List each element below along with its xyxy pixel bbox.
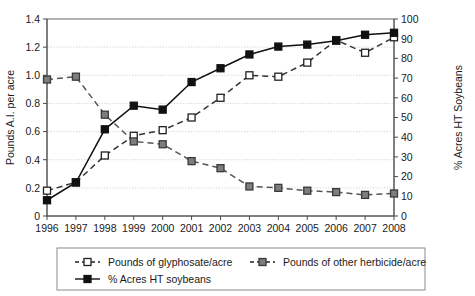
- data-point-marker: [217, 94, 224, 101]
- legend-label: Pounds of other herbicide/acre: [283, 256, 426, 268]
- data-point-marker: [304, 187, 311, 194]
- plot-frame: [47, 19, 394, 216]
- x-axis: 1996199719981999200020012002200320042005…: [35, 216, 406, 234]
- data-point-marker: [362, 191, 369, 198]
- legend-marker: [84, 259, 91, 266]
- line-chart: 00.20.40.60.81.01.21.4 01020304050607080…: [0, 0, 475, 296]
- data-series-layer: [44, 29, 398, 203]
- data-point-marker: [275, 73, 282, 80]
- x-axis-tick-label: 2001: [180, 222, 204, 234]
- right-axis-tick-label: 90: [401, 33, 413, 45]
- right-axis-tick-label: 20: [401, 170, 413, 182]
- x-axis-tick-label: 1999: [122, 222, 146, 234]
- data-point-marker: [159, 127, 166, 134]
- legend-marker: [259, 259, 266, 266]
- left-axis-tick-label: 0.4: [25, 154, 40, 166]
- x-axis-tick-label: 2000: [151, 222, 175, 234]
- y2-axis-title: % Acres HT Soybeans: [452, 65, 464, 170]
- data-point-marker: [159, 141, 166, 148]
- series-line: [47, 33, 394, 200]
- data-point-marker: [246, 51, 253, 58]
- right-axis-tick-label: 70: [401, 72, 413, 84]
- x-axis-tick-label: 1998: [93, 222, 117, 234]
- data-point-marker: [333, 37, 340, 44]
- data-point-marker: [217, 65, 224, 72]
- left-axis-tick-label: 0.2: [25, 182, 40, 194]
- left-axis-tick-label: 1.2: [25, 41, 40, 53]
- x-axis-tick-label: 2006: [324, 222, 348, 234]
- series-3: [44, 29, 398, 203]
- x-axis-tick-label: 2002: [209, 222, 233, 234]
- data-point-marker: [101, 152, 108, 159]
- chart-figure: 00.20.40.60.81.01.21.4 01020304050607080…: [0, 0, 475, 296]
- data-point-marker: [246, 183, 253, 190]
- x-axis-tick-label: 2007: [353, 222, 377, 234]
- left-axis-tick-label: 0.8: [25, 97, 40, 109]
- x-axis-tick-label: 2003: [238, 222, 262, 234]
- data-point-marker: [391, 190, 398, 197]
- data-point-marker: [362, 49, 369, 56]
- data-point-marker: [101, 111, 108, 118]
- data-point-marker: [246, 72, 253, 79]
- data-point-marker: [275, 43, 282, 50]
- x-axis-tick-label: 1996: [35, 222, 59, 234]
- data-point-marker: [217, 165, 224, 172]
- data-point-marker: [101, 126, 108, 133]
- data-point-marker: [44, 187, 51, 194]
- chart-legend: Pounds of glyphosate/acrePounds of other…: [57, 248, 426, 290]
- data-point-marker: [72, 179, 79, 186]
- data-point-marker: [44, 197, 51, 204]
- left-axis-tick-label: 0.6: [25, 125, 40, 137]
- x-axis-tick-label: 2008: [382, 222, 406, 234]
- right-axis-tick-label: 30: [401, 151, 413, 163]
- legend-label: % Acres HT soybeans: [108, 273, 211, 285]
- data-point-marker: [304, 41, 311, 48]
- data-point-marker: [391, 29, 398, 36]
- right-axis-tick-label: 40: [401, 131, 413, 143]
- left-axis-tick-label: 1.0: [25, 69, 40, 81]
- legend-marker: [84, 276, 91, 283]
- right-axis-tick-label: 60: [401, 92, 413, 104]
- x-axis-tick-label: 1997: [64, 222, 88, 234]
- data-point-marker: [362, 31, 369, 38]
- data-point-marker: [188, 79, 195, 86]
- data-point-marker: [188, 114, 195, 121]
- data-point-marker: [304, 59, 311, 66]
- data-point-marker: [72, 73, 79, 80]
- left-axis-tick-label: 1.4: [25, 13, 40, 25]
- right-axis-tick-label: 50: [401, 111, 413, 123]
- right-axis-tick-label: 80: [401, 52, 413, 64]
- data-point-marker: [130, 138, 137, 145]
- data-point-marker: [159, 106, 166, 113]
- data-point-marker: [275, 184, 282, 191]
- data-point-marker: [333, 189, 340, 196]
- data-point-marker: [188, 158, 195, 165]
- x-axis-tick-label: 2004: [267, 222, 291, 234]
- grid-lines: [48, 19, 393, 188]
- y-axis-title: Pounds A.I. per acre: [4, 70, 16, 165]
- right-axis-tick-label: 100: [401, 13, 419, 25]
- data-point-marker: [44, 76, 51, 83]
- data-point-marker: [130, 102, 137, 109]
- legend-label: Pounds of glyphosate/acre: [108, 256, 232, 268]
- right-axis-tick-label: 10: [401, 190, 413, 202]
- right-axis-tick-label: 0: [401, 210, 407, 222]
- series-2: [44, 73, 398, 198]
- x-axis-tick-label: 2005: [296, 222, 320, 234]
- left-axis-tick-label: 0: [34, 210, 40, 222]
